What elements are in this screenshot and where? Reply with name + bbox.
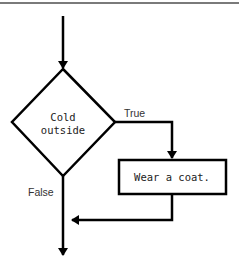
process-label: Wear a coat. (134, 171, 210, 183)
return-arrow (72, 194, 172, 220)
true-label: True (124, 107, 145, 119)
flowchart: Cold outside True Wear a coat. False (0, 0, 239, 270)
true-branch-arrow (115, 122, 172, 158)
decision-label-line2: outside (41, 124, 85, 136)
decision-label-line1: Cold (50, 111, 75, 123)
false-label: False (28, 186, 54, 198)
